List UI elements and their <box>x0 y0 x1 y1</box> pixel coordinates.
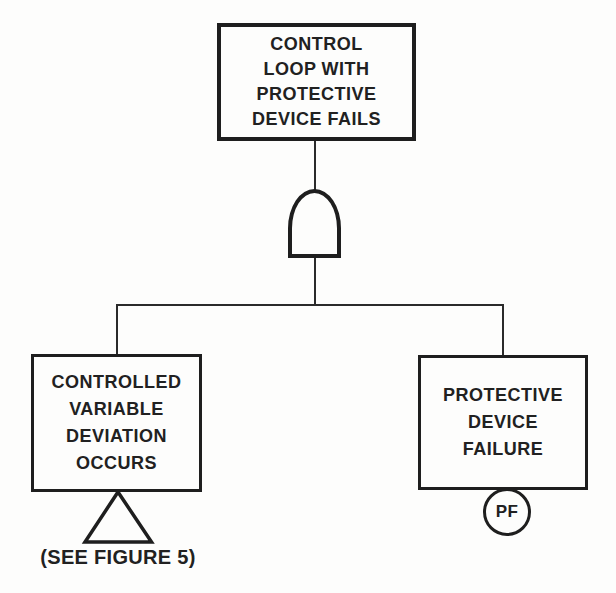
basic-event-label: PF <box>496 502 519 522</box>
right-event-box: PROTECTIVE DEVICE FAILURE <box>418 355 588 490</box>
basic-event-circle: PF <box>483 488 531 536</box>
right-event-label: PROTECTIVE DEVICE FAILURE <box>443 382 563 463</box>
top-event-label: CONTROL LOOP WITH PROTECTIVE DEVICE FAIL… <box>252 32 381 132</box>
top-event-box: CONTROL LOOP WITH PROTECTIVE DEVICE FAIL… <box>217 23 416 141</box>
left-event-box: CONTROLLED VARIABLE DEVIATION OCCURS <box>31 354 202 492</box>
left-event-label: CONTROLLED VARIABLE DEVIATION OCCURS <box>52 369 182 477</box>
transfer-triangle-icon <box>85 492 152 542</box>
fault-tree-diagram: CONTROL LOOP WITH PROTECTIVE DEVICE FAIL… <box>0 0 616 593</box>
and-gate-icon <box>288 189 341 258</box>
transfer-reference-note: (SEE FIGURE 5) <box>28 546 208 569</box>
